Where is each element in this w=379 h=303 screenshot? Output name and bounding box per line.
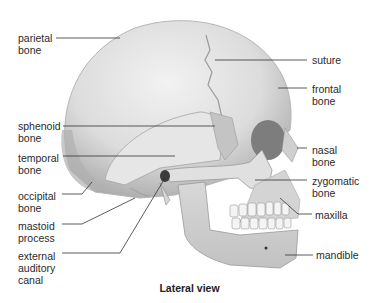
label-frontal-bone: frontal bone xyxy=(312,83,341,107)
label-maxilla: maxilla xyxy=(315,209,348,221)
label-temporal-bone: temporal bone xyxy=(18,152,59,176)
label-suture: suture xyxy=(312,54,341,66)
label-occipital-bone: occipital bone xyxy=(18,190,56,214)
label-nasal-bone: nasal bone xyxy=(312,144,337,168)
label-external-auditory-canal: external auditory canal xyxy=(18,250,55,286)
label-parietal-bone: parietal bone xyxy=(18,32,52,56)
orbit xyxy=(251,120,285,160)
label-mastoid-process: mastoid process xyxy=(18,220,55,244)
label-sphenoid-bone: sphenoid bone xyxy=(18,120,61,144)
label-mandible: mandible xyxy=(316,249,359,261)
diagram-caption: Lateral view xyxy=(0,282,379,294)
label-zygomatic-bone: zygomatic bone xyxy=(312,175,359,199)
ear-canal xyxy=(160,170,170,182)
